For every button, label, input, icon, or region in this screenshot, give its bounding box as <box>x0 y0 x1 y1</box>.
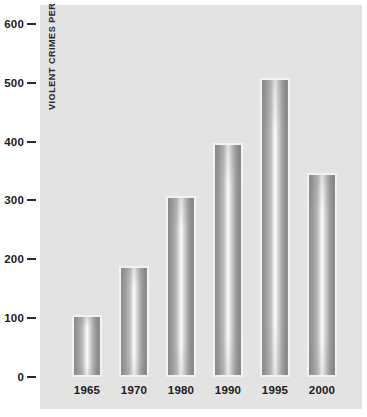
y-axis-tick-dash <box>27 82 36 84</box>
y-axis-tick-0: 0 <box>0 370 40 384</box>
y-axis-tick-200: 200 <box>0 252 40 266</box>
y-axis-tick-600: 600 <box>0 17 40 31</box>
y-axis-tick-label: 0 <box>17 371 27 383</box>
y-axis-tick-label: 100 <box>4 312 27 324</box>
bar-1970[interactable] <box>119 266 149 377</box>
bar-1990[interactable] <box>213 143 243 377</box>
x-axis-tick-1980: 1980 <box>154 384 208 396</box>
bar-1995[interactable] <box>260 78 290 377</box>
y-axis-tick-dash <box>27 376 36 378</box>
x-axis-tick-1995: 1995 <box>248 384 302 396</box>
x-axis-tick-1970: 1970 <box>107 384 161 396</box>
y-axis-tick-label: 600 <box>4 18 27 30</box>
y-axis-tick-label: 300 <box>4 194 27 206</box>
y-axis-tick-dash <box>27 258 36 260</box>
y-axis-tick-400: 400 <box>0 135 40 149</box>
y-axis-tick-label: 500 <box>4 77 27 89</box>
y-axis-tick-100: 100 <box>0 311 40 325</box>
bar-1980[interactable] <box>166 196 196 377</box>
x-axis-tick-1990: 1990 <box>201 384 255 396</box>
bar-1965[interactable] <box>72 315 102 377</box>
x-axis-tick-2000: 2000 <box>295 384 349 396</box>
y-axis-tick-label: 200 <box>4 253 27 265</box>
y-axis-tick-dash <box>27 199 36 201</box>
y-axis-tick-dash <box>27 23 36 25</box>
y-axis-tick-dash <box>27 317 36 319</box>
bar-chart-figure: 600 500 400 300 200 100 0 VIOLENT CRIMES… <box>0 0 367 417</box>
y-axis-tick-dash <box>27 141 36 143</box>
y-axis-tick-300: 300 <box>0 193 40 207</box>
bar-2000[interactable] <box>307 173 337 377</box>
y-axis-tick-label: 400 <box>4 136 27 148</box>
y-axis-title: VIOLENT CRIMES PER 100,000 JUVENILES <box>47 0 57 110</box>
y-axis-tick-500: 500 <box>0 76 40 90</box>
x-axis-tick-1965: 1965 <box>60 384 114 396</box>
